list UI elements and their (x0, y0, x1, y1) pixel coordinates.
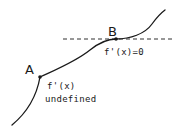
point-b-annotation: f'(x)=0 (104, 48, 144, 57)
function-curve (12, 10, 165, 125)
point-b-label: B (108, 25, 117, 38)
point-a-annotation-line2: undefined (45, 95, 96, 104)
point-a-marker (38, 75, 42, 79)
point-a-annotation-line1: f'(x) (47, 82, 76, 91)
point-a-label: A (25, 63, 34, 76)
